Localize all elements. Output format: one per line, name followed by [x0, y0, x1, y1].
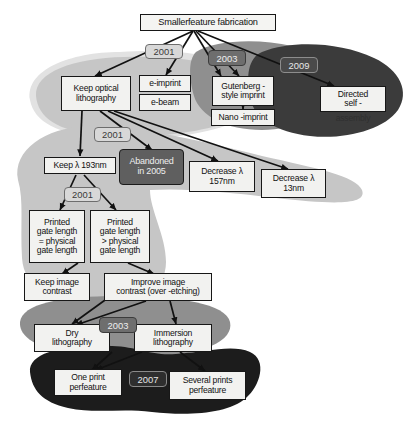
node-one-print-per-feature[interactable]: One printperfeature: [54, 369, 122, 396]
node-keep-image-contrast[interactable]: Keep imagecontrast: [24, 273, 90, 301]
node-keep-optical-lithography[interactable]: Keep opticallithography: [61, 76, 131, 111]
node-e-beam[interactable]: e-beam: [139, 94, 191, 111]
node-root-smaller-feature-fabrication[interactable]: Smallerfeature fabrication: [140, 14, 276, 31]
node-immersion-lithography[interactable]: Immersionlithography: [134, 324, 212, 352]
year-label-2009[interactable]: 2009: [280, 57, 318, 73]
node-nano-imprint[interactable]: Nano -imprint: [211, 109, 275, 126]
year-label-2007[interactable]: 2007: [129, 371, 167, 387]
node-directed-self-assembly-tail: assembly: [320, 112, 386, 125]
node-e-imprint[interactable]: e-imprint: [139, 75, 191, 92]
node-improve-image-contrast[interactable]: Improve imagecontrast (over -etching): [104, 273, 212, 301]
diagram-canvas: 2001 2003 2009 2001 2001 2003 2007 Small…: [0, 0, 415, 425]
year-label-2001-b[interactable]: 2001: [94, 127, 131, 142]
node-directed-self-assembly[interactable]: Directedself -: [320, 86, 386, 112]
edge-immersion-to-several: [180, 352, 205, 371]
node-decrease-lambda-13nm[interactable]: Decrease λ13nm: [261, 169, 326, 198]
node-gutenberg-style-imprint[interactable]: Gutenberg -style imprint: [212, 76, 274, 106]
year-label-2003-a[interactable]: 2003: [208, 50, 246, 66]
edge-optical-to-keep-lambda: [80, 111, 82, 156]
node-decrease-lambda-157nm[interactable]: Decrease λ157nm: [189, 161, 255, 192]
node-printed-gate-length-equal[interactable]: Printedgate length= physicalgate length: [29, 210, 85, 263]
node-keep-lambda-193nm[interactable]: Keep λ 193nm: [44, 157, 116, 174]
node-several-prints-per-feature[interactable]: Several printsperfeature: [169, 371, 246, 400]
year-label-2001-a[interactable]: 2001: [145, 44, 183, 59]
node-abandoned-in-2005[interactable]: Abandonedin 2005: [119, 149, 184, 185]
year-label-2003-b[interactable]: 2003: [99, 317, 137, 333]
edge-improve-to-immersion: [170, 301, 176, 324]
year-label-2001-c[interactable]: 2001: [64, 187, 101, 202]
node-printed-gate-length-greater[interactable]: Printedgate length> physicalgate length: [90, 210, 150, 263]
